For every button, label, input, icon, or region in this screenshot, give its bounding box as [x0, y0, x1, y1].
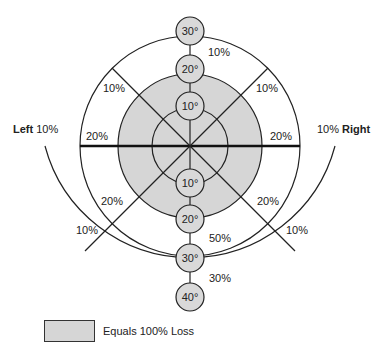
svg-text:30°: 30°: [182, 252, 199, 264]
degree-marker-top-10: 10°: [176, 92, 204, 120]
legend-swatch: [44, 320, 95, 342]
pct-bottom-50: 50%: [209, 232, 231, 244]
svg-text:10°: 10°: [182, 100, 199, 112]
pct-bottom-30: 30%: [209, 272, 231, 284]
pct-lower-right-outer: 10%: [286, 224, 308, 236]
pct-lower-left-inner: 20%: [101, 195, 123, 207]
legend: Equals 100% Loss: [44, 320, 194, 342]
degree-marker-bottom-30: 30°: [176, 244, 204, 272]
degree-marker-bottom-40: 40°: [176, 283, 204, 311]
pct-upper-left: 10%: [103, 82, 125, 94]
left-label: Left 10%: [13, 123, 58, 135]
svg-text:30°: 30°: [182, 25, 199, 37]
degree-marker-top-30: 30°: [176, 17, 204, 45]
pct-upper-right: 10%: [256, 82, 278, 94]
svg-text:20°: 20°: [182, 213, 199, 225]
pct-left-horizontal: 20%: [86, 130, 108, 142]
visual-field-diagram: 30° 20° 10° 10° 20° 30° 40° 10% 10% 10% …: [0, 0, 380, 349]
pct-top-ring: 10%: [208, 46, 230, 58]
degree-marker-bottom-10: 10°: [176, 169, 204, 197]
svg-text:20°: 20°: [182, 63, 199, 75]
pct-right-horizontal: 20%: [270, 130, 292, 142]
right-label: 10% Right: [317, 123, 371, 135]
degree-marker-top-20: 20°: [176, 55, 204, 83]
pct-lower-left-outer: 10%: [76, 224, 98, 236]
pct-lower-right-inner: 20%: [257, 195, 279, 207]
svg-text:40°: 40°: [182, 291, 199, 303]
legend-label: Equals 100% Loss: [103, 325, 194, 337]
svg-text:10°: 10°: [182, 177, 199, 189]
degree-marker-bottom-20: 20°: [176, 205, 204, 233]
